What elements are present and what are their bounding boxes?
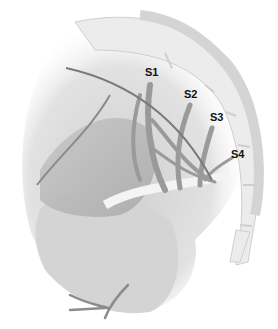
label-s2: S2 [184,89,197,100]
label-s1: S1 [145,67,158,78]
sacral-anatomy-illustration [0,0,278,329]
anatomy-figure: S1 S2 S3 S4 [0,0,278,329]
label-s4: S4 [231,149,244,160]
label-s3: S3 [210,112,223,123]
